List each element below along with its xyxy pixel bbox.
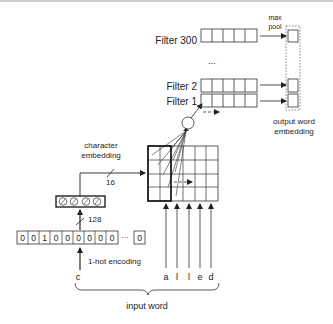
input-word-label: input word bbox=[126, 301, 168, 311]
onehot-encoding-label: 1-hot encoding bbox=[88, 257, 141, 266]
output-embedding-label-line1: output word bbox=[273, 117, 315, 126]
onehot-cell: 0 bbox=[98, 233, 103, 243]
input-letter-arrows bbox=[166, 204, 211, 268]
input-letter: d bbox=[208, 272, 213, 282]
onehot-cell: 0 bbox=[76, 233, 81, 243]
input-word-brace bbox=[75, 283, 219, 295]
max-pool-label-line2: pool bbox=[268, 23, 282, 31]
onehot-ellipsis: ··· bbox=[121, 233, 129, 242]
input-letter: l bbox=[176, 272, 178, 282]
filter-1-label: Filter 1 bbox=[166, 96, 197, 107]
output-word-embedding bbox=[286, 26, 300, 110]
input-letter: e bbox=[197, 272, 202, 282]
onehot-cell: 1 bbox=[42, 233, 47, 243]
input-letter: l bbox=[188, 272, 190, 282]
char-embedding-label-line1: character bbox=[84, 141, 118, 150]
embedding-vector bbox=[56, 196, 105, 207]
char-embedding-matrix bbox=[148, 146, 218, 201]
filters-ellipsis: ... bbox=[208, 56, 216, 66]
filter-window bbox=[148, 146, 171, 201]
filter-1-row: Filter 1 bbox=[166, 94, 286, 112]
onehot-cell: 0 bbox=[87, 233, 92, 243]
onehot-last-cell: 0 bbox=[137, 233, 142, 243]
input-char-c: c bbox=[76, 272, 81, 282]
onehot-cell: 0 bbox=[20, 233, 25, 243]
filter-2-label: Filter 2 bbox=[166, 81, 197, 92]
conv-node-circle bbox=[182, 117, 194, 129]
filter-300-row: Filter 300 bbox=[155, 29, 286, 46]
char-embedding-label-line2: embedding bbox=[81, 151, 121, 160]
onehot-cell: 0 bbox=[54, 233, 59, 243]
filter-window-fan-lines bbox=[152, 131, 186, 196]
onehot-cell: 0 bbox=[31, 233, 36, 243]
cnn-char-embedding-diagram: Filter 300 ... Filter 2 Filter 1 max poo… bbox=[0, 0, 333, 324]
filter-300-label: Filter 300 bbox=[155, 35, 197, 46]
output-embedding-label-line2: embedding bbox=[274, 127, 314, 136]
filter-2-row: Filter 2 bbox=[166, 79, 286, 92]
dim-128-label: 128 bbox=[88, 215, 102, 224]
onehot-cell: 0 bbox=[110, 233, 115, 243]
input-letter: a bbox=[163, 272, 168, 282]
onehot-cell: 0 bbox=[65, 233, 70, 243]
max-pool-label-line1: max bbox=[268, 14, 282, 21]
dim-16-label: 16 bbox=[106, 178, 115, 187]
onehot-vector: 0 0 1 0 0 0 0 0 0 ··· 0 bbox=[17, 231, 145, 244]
